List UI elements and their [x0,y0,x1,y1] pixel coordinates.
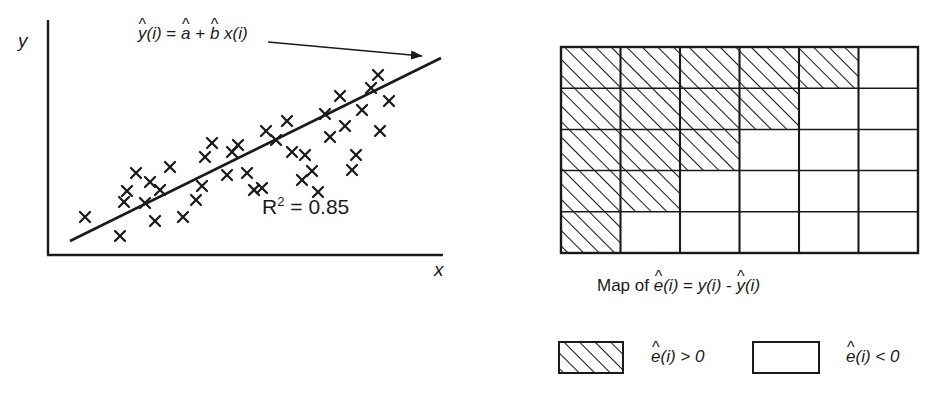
data-point [335,91,345,101]
regression-equation-label: ^y(i) = ^a + ^b x(i) [138,24,248,44]
a-hat-symbol: ^a [181,24,190,44]
circumflex-icon: ^ [138,16,146,32]
data-point [131,168,141,178]
map-cell [740,88,800,129]
legend-swatch-positive [559,342,623,373]
map-cell [561,212,621,253]
data-point [80,212,90,222]
scatter-panel: y x ^y(i) = ^a + ^b x(i) R2 = 0.85 [0,0,470,300]
scatter-plot-svg [0,0,470,300]
map-cell [799,129,859,170]
map-cell [561,171,621,212]
e-hat-symbol: ^e [654,276,663,296]
equation-arrow [268,42,422,56]
figure-root: y x ^y(i) = ^a + ^b x(i) R2 = 0.85 [0,0,935,402]
map-cell [621,212,681,253]
e-hat-symbol: ^e [846,347,855,367]
data-point [375,126,385,136]
map-cell [680,212,740,253]
residual-map-panel: Map of ^e(i) = y(i) - ^y(i) ^e(i) > 0 ^e… [470,0,935,402]
residual-map-grid [561,47,918,253]
data-point [340,121,350,131]
map-cell [680,129,740,170]
map-cell [680,47,740,88]
map-cell [680,88,740,129]
data-point [115,231,125,241]
y-hat-symbol-caption: ^y [736,276,745,296]
x-axis-label: x [434,259,444,281]
legend-label-positive: ^e(i) > 0 [651,347,704,367]
data-point [233,140,243,150]
data-point [357,105,367,115]
data-point [197,181,207,191]
map-cell [680,171,740,212]
r-value: 0.85 [308,195,349,218]
data-point [165,162,175,172]
map-cell [561,88,621,129]
legend-negative-rest: (i) < 0 [855,347,899,366]
legend-label-negative: ^e(i) < 0 [846,347,899,367]
caption-minus: - [726,276,732,295]
circumflex-icon: ^ [652,339,660,355]
caption-yhat-arg: (i) [745,276,760,295]
equation-plus: + [195,24,205,43]
map-cell [621,88,681,129]
b-hat-symbol: ^b [210,24,219,44]
map-cell [799,171,859,212]
data-point [351,150,361,160]
map-cell [859,47,919,88]
legend-swatch-negative [753,342,819,373]
equation-equals: = [166,24,176,43]
circumflex-icon: ^ [847,339,855,355]
map-cell [740,129,800,170]
map-cell [799,47,859,88]
data-point [297,175,307,185]
map-cell [799,88,859,129]
data-point [145,177,155,187]
data-point [178,212,188,222]
map-cell [740,171,800,212]
data-point [287,147,297,157]
data-point [119,197,129,207]
map-cell [859,129,919,170]
data-point [282,116,292,126]
data-point [257,183,267,193]
data-point [373,70,383,80]
data-point [347,165,357,175]
circumflex-icon: ^ [182,16,190,32]
caption-equals: = [683,276,693,295]
map-cell [621,47,681,88]
r-equals: = [290,195,302,218]
caption-y-arg: y(i) [698,276,722,295]
circumflex-icon: ^ [655,268,663,284]
y-hat-symbol: ^y [138,24,147,44]
data-point [222,170,232,180]
map-cell [859,212,919,253]
plot-axes [47,20,443,255]
map-caption: Map of ^e(i) = y(i) - ^y(i) [597,276,760,296]
data-point [307,166,317,176]
caption-prefix: Map of [597,276,649,295]
data-point [191,195,201,205]
equation-lhs-arg: (i) [147,24,162,43]
r-symbol: R [262,195,277,218]
r-exponent: 2 [277,194,284,209]
map-cell [740,47,800,88]
map-cell [561,129,621,170]
map-cell [859,171,919,212]
map-cell [859,88,919,129]
data-point [150,216,160,226]
data-point [207,138,217,148]
regression-line [70,58,441,241]
y-axis-label: y [18,30,28,52]
caption-e-arg: (i) [663,276,678,295]
legend-positive-rest: (i) > 0 [660,347,704,366]
map-cell [621,129,681,170]
map-cell [740,212,800,253]
map-cell [561,47,621,88]
data-point [300,150,310,160]
data-point [155,185,165,195]
circumflex-icon: ^ [737,268,745,284]
data-point [325,132,335,142]
data-point [242,168,252,178]
